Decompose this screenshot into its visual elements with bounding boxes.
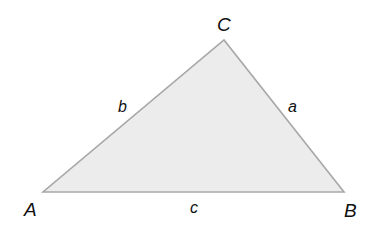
vertex-label-b: B xyxy=(344,200,357,221)
vertex-label-c: C xyxy=(217,14,231,35)
triangle-abc xyxy=(43,40,344,192)
side-label-c: c xyxy=(190,199,198,216)
triangle-diagram: A B C b a c xyxy=(0,0,374,235)
side-label-b: b xyxy=(118,98,127,115)
vertex-label-a: A xyxy=(23,199,37,220)
side-label-a: a xyxy=(288,98,297,115)
